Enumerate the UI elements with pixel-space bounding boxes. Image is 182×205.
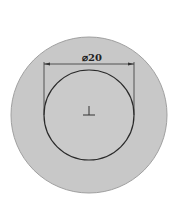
sketch-canvas: ⌀20 <box>0 0 182 205</box>
dimension-label[interactable]: ⌀20 <box>82 52 102 63</box>
